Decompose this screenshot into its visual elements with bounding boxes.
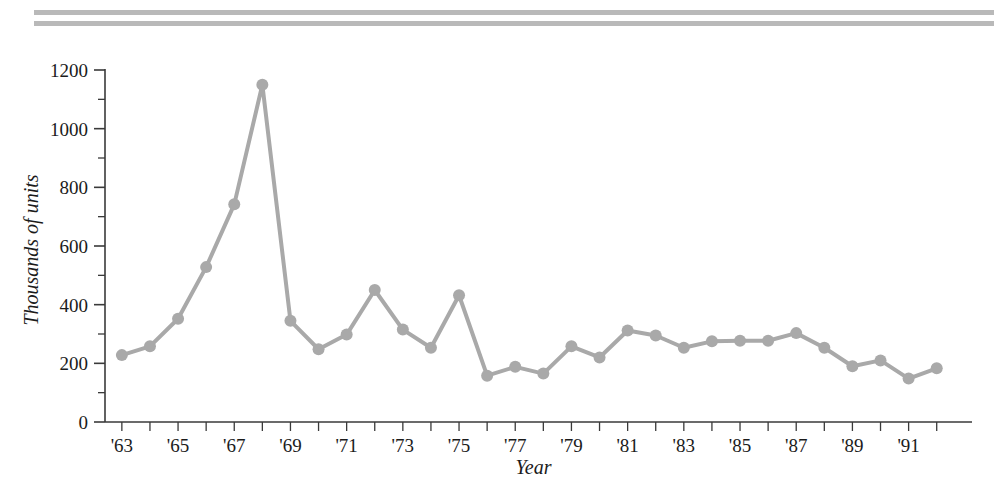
x-tick-label: '67 [223,435,245,456]
data-point-marker [622,324,634,336]
x-tick-label: '63 [111,435,133,456]
x-axis-title: Year [516,456,552,478]
x-axis: '63'65'67'69'71'73'75'77'79'81'83'85'87'… [105,422,972,456]
y-tick-label: 1200 [50,60,88,81]
data-point-marker [425,342,437,354]
y-tick-label: 200 [60,353,89,374]
data-point-marker [341,329,353,341]
x-tick-label: '73 [392,435,414,456]
data-series-units [116,79,943,385]
x-tick-label: '77 [504,435,526,456]
x-tick-label: '83 [673,435,695,456]
x-tick-label: '71 [335,435,357,456]
y-tick-label: 400 [60,295,89,316]
data-point-marker [144,340,156,352]
x-tick-label: '89 [841,435,863,456]
data-point-marker [284,315,296,327]
data-point-marker [903,373,915,385]
x-tick-label: '75 [448,435,470,456]
data-point-marker [256,79,268,91]
y-axis: 020040060080010001200 [50,60,105,433]
data-point-marker [565,340,577,352]
data-point-marker [509,361,521,373]
data-point-marker [846,360,858,372]
data-point-marker [734,335,746,347]
data-point-marker [313,343,325,355]
line-chart-figure: 020040060080010001200 '63'65'67'69'71'73… [0,0,1000,500]
x-tick-label: '79 [560,435,582,456]
data-point-marker [678,342,690,354]
data-point-marker [200,261,212,273]
data-point-marker [537,368,549,380]
y-tick-label: 800 [60,177,89,198]
y-tick-label: 1000 [50,119,88,140]
data-point-marker [706,335,718,347]
data-point-marker [594,351,606,363]
data-point-marker [931,362,943,374]
data-point-marker [228,198,240,210]
x-tick-label: '85 [729,435,751,456]
data-point-marker [762,335,774,347]
data-point-marker [172,313,184,325]
y-axis-title: Thousands of units [20,174,43,325]
data-point-marker [369,284,381,296]
x-tick-label: '69 [279,435,301,456]
data-point-marker [818,342,830,354]
y-tick-label: 0 [79,412,89,433]
data-point-marker [453,289,465,301]
chart-plot-area: 020040060080010001200 '63'65'67'69'71'73… [0,0,1000,500]
data-point-marker [481,370,493,382]
series-line [122,85,937,379]
data-point-marker [650,329,662,341]
data-point-marker [790,327,802,339]
y-tick-label: 600 [60,236,89,257]
data-point-marker [397,324,409,336]
data-point-marker [116,349,128,361]
data-point-marker [875,354,887,366]
x-tick-label: '87 [785,435,807,456]
x-tick-label: '91 [897,435,919,456]
x-tick-label: '81 [616,435,638,456]
x-tick-label: '65 [167,435,189,456]
